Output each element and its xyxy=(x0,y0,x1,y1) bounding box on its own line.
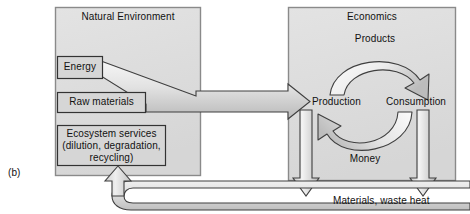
panel-title-economics: Economics xyxy=(288,11,456,23)
figure-diagram-economy-environment: Natural Environment Economics Energy Raw… xyxy=(0,0,470,214)
panel-title-natural-environment: Natural Environment xyxy=(55,11,201,23)
box-label-ecosystem-services-line1: Ecosystem services xyxy=(57,128,166,140)
box-label-energy: Energy xyxy=(57,61,103,73)
box-label-raw-materials: Raw materials xyxy=(57,96,146,108)
box-label-ecosystem-services-line3: recycling) xyxy=(57,152,166,164)
node-label-consumption: Consumption xyxy=(386,96,446,108)
box-label-ecosystem-services-line2: (dilution, degradation, xyxy=(53,140,170,152)
node-label-production: Production xyxy=(312,96,361,108)
arc-label-money: Money xyxy=(335,153,395,165)
arc-label-products: Products xyxy=(340,33,410,45)
figure-letter-label: (b) xyxy=(8,167,21,179)
waste-flow-label: Materials, waste heat xyxy=(333,195,430,207)
